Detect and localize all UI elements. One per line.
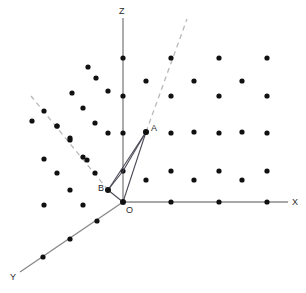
lattice-dot xyxy=(29,118,34,123)
crystal-lattice-figure: ZXYOAB xyxy=(0,0,306,293)
lattice-dot xyxy=(54,170,59,175)
axis-dot-z xyxy=(120,55,125,60)
lattice-dot xyxy=(93,75,98,80)
axis-dot-x xyxy=(264,199,269,204)
segment-zaxis-a xyxy=(123,132,146,171)
lattice-dot xyxy=(216,130,221,135)
lattice-dot xyxy=(264,168,269,173)
lattice-dot xyxy=(168,93,173,98)
lattice-dot xyxy=(92,120,97,125)
point-a-dot xyxy=(143,129,149,135)
axis-label-z: Z xyxy=(119,6,125,16)
axis-dot-x xyxy=(216,199,221,204)
lattice-dot xyxy=(239,78,244,83)
lattice-dot xyxy=(216,93,221,98)
axis-dot-x xyxy=(168,199,173,204)
marked-points-group xyxy=(105,129,149,205)
lattice-dot xyxy=(54,123,59,128)
point-b-label: B xyxy=(98,183,104,193)
lattice-dot xyxy=(67,137,72,142)
lattice-dot xyxy=(264,130,269,135)
point-b-dot xyxy=(105,187,111,193)
segment-b-zaxis-a xyxy=(108,171,123,190)
lattice-dot xyxy=(41,156,46,161)
lattice-dot xyxy=(216,55,221,60)
lattice-dots-group xyxy=(29,55,269,259)
axes-group xyxy=(20,18,288,272)
axis-dot-y xyxy=(94,218,99,223)
lattice-dot xyxy=(41,108,46,113)
lattice-dot xyxy=(216,168,221,173)
lattice-dot xyxy=(80,154,85,159)
lattice-dot xyxy=(80,105,85,110)
lattice-dot xyxy=(143,78,148,83)
axis-dot-z xyxy=(120,93,125,98)
lattice-dot xyxy=(67,187,72,192)
point-a-label: A xyxy=(151,123,157,133)
vectors-group xyxy=(108,132,146,202)
lattice-dot xyxy=(168,168,173,173)
lattice-dot xyxy=(191,129,196,134)
dashed-lines-group xyxy=(31,19,187,190)
dashed-line-right xyxy=(146,19,187,132)
lattice-dot xyxy=(191,177,196,182)
lattice-dot xyxy=(168,55,173,60)
lattice-dot xyxy=(191,78,196,83)
lattice-dot xyxy=(264,93,269,98)
lattice-dot xyxy=(264,55,269,60)
lattice-dot xyxy=(85,64,90,69)
lattice-dot xyxy=(239,129,244,134)
lattice-dot xyxy=(41,202,46,207)
origin-label-o: O xyxy=(126,205,133,215)
axis-dot-y xyxy=(40,254,45,259)
vector-oa xyxy=(123,132,146,202)
lattice-dot xyxy=(105,130,110,135)
lattice-dot xyxy=(168,130,173,135)
labels-group: ZXYOAB xyxy=(10,6,298,282)
lattice-diagram-canvas: ZXYOAB xyxy=(0,0,306,293)
lattice-dot xyxy=(92,170,97,175)
lattice-dot xyxy=(69,90,74,95)
lattice-dot xyxy=(239,177,244,182)
axis-dot-y xyxy=(67,236,72,241)
axis-dot-z xyxy=(120,130,125,135)
axis-label-y: Y xyxy=(10,272,16,282)
lattice-dot xyxy=(143,177,148,182)
lattice-dot xyxy=(105,88,110,93)
lattice-dot xyxy=(80,202,85,207)
axis-label-x: X xyxy=(292,197,298,207)
